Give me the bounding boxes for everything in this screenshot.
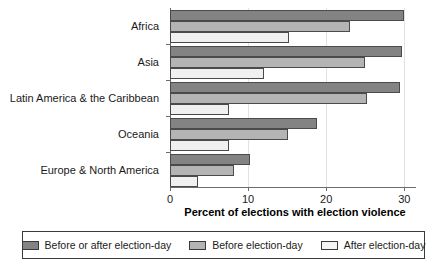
x-tick-label: 20	[320, 193, 332, 205]
plot-wrapper: AfricaAsiaLatin America & the CaribbeanO…	[0, 8, 447, 188]
bar	[170, 21, 350, 32]
bar	[170, 104, 229, 115]
bar	[170, 165, 234, 176]
bar	[170, 176, 198, 187]
bar	[170, 82, 400, 93]
medium-gray-swatch	[189, 241, 206, 250]
x-tick-label: 30	[398, 193, 410, 205]
legend-item[interactable]: Before or after election-day	[22, 239, 172, 251]
legend-label: After election-day	[344, 239, 426, 251]
bar-chart: AfricaAsiaLatin America & the CaribbeanO…	[0, 0, 447, 272]
x-tick-label: 0	[167, 193, 173, 205]
x-axis-line	[170, 187, 416, 188]
bar	[170, 68, 264, 79]
bar	[170, 154, 250, 165]
category-label-europe-north-america: Europe & North America	[40, 164, 159, 176]
category-label-oceania: Oceania	[118, 128, 159, 140]
y-tick-mark	[166, 80, 170, 81]
dark-gray-swatch	[22, 241, 39, 250]
x-tick-mark	[170, 187, 171, 191]
plot-area: 0102030	[170, 8, 416, 188]
bar	[170, 118, 317, 129]
y-tick-mark	[166, 44, 170, 45]
y-tick-mark	[166, 152, 170, 153]
bar	[170, 46, 402, 57]
x-tick-mark	[248, 187, 249, 191]
x-tick-mark	[326, 187, 327, 191]
light-gray-swatch	[321, 241, 338, 250]
bar	[170, 129, 288, 140]
x-tick-mark	[404, 187, 405, 191]
bar	[170, 10, 404, 21]
category-label-asia: Asia	[138, 56, 159, 68]
category-label-africa: Africa	[131, 20, 159, 32]
bar	[170, 93, 367, 104]
x-axis-title: Percent of elections with election viole…	[170, 206, 420, 219]
chart-legend: Before or after election-dayBefore elect…	[22, 231, 425, 259]
x-gridline	[404, 8, 405, 187]
legend-item[interactable]: After election-day	[321, 239, 426, 251]
legend-item[interactable]: Before election-day	[189, 239, 302, 251]
bar	[170, 57, 365, 68]
bar	[170, 32, 289, 43]
category-label-latin-america-the-caribbean: Latin America & the Caribbean	[10, 92, 159, 104]
bar	[170, 140, 229, 151]
legend-label: Before election-day	[212, 239, 302, 251]
y-tick-mark	[166, 116, 170, 117]
category-axis-labels: AfricaAsiaLatin America & the CaribbeanO…	[0, 8, 165, 188]
x-tick-label: 10	[242, 193, 254, 205]
legend-label: Before or after election-day	[45, 239, 172, 251]
